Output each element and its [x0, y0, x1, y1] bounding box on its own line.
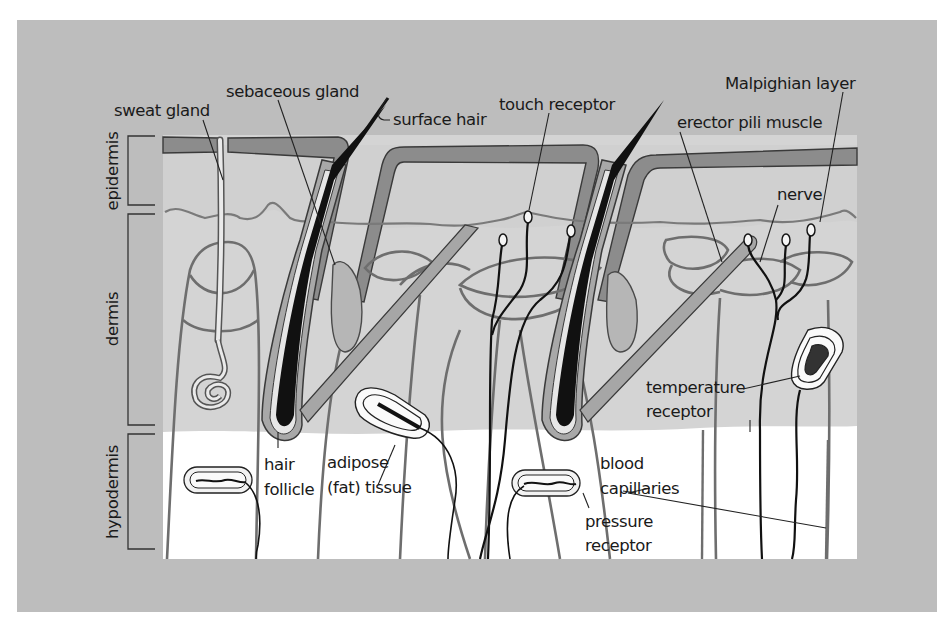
label-hypodermis: hypodermis — [103, 445, 122, 539]
label-pressure-receptor-line2: receptor — [585, 536, 652, 555]
label-malpighian-layer: Malpighian layer — [725, 74, 856, 93]
skin-cross-section-diagram: epidermis dermis hypodermis sweat gland … — [0, 0, 952, 636]
label-temperature-receptor-line1: temperature — [646, 378, 746, 397]
label-touch-receptor: touch receptor — [499, 95, 615, 114]
label-sebaceous-gland: sebaceous gland — [226, 82, 359, 101]
label-hair-follicle-line1: hair — [264, 455, 295, 474]
label-dermis: dermis — [103, 292, 122, 347]
label-hair-follicle-line2: follicle — [264, 480, 315, 499]
label-temperature-receptor-line2: receptor — [646, 402, 713, 421]
label-adipose-line2: (fat) tissue — [327, 478, 412, 497]
label-epidermis: epidermis — [103, 132, 122, 211]
label-surface-hair: surface hair — [393, 110, 487, 129]
label-blood-capillaries-line1: blood — [600, 454, 644, 473]
label-adipose-line1: adipose — [327, 453, 389, 472]
label-nerve: nerve — [777, 185, 823, 204]
label-erector-pili-muscle: erector pili muscle — [677, 113, 822, 132]
layer-brackets — [128, 136, 155, 549]
label-pressure-receptor-line1: pressure — [585, 512, 653, 531]
label-blood-capillaries-line2: capillaries — [600, 479, 679, 498]
label-sweat-gland: sweat gland — [114, 101, 210, 120]
